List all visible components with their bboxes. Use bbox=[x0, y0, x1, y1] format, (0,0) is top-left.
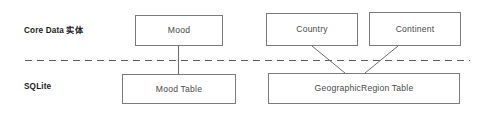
entity-box-country-label: Country bbox=[296, 25, 328, 34]
layer-label-sqlite: SQLite bbox=[24, 83, 51, 91]
table-box-georegion-table-label: GeographicRegion Table bbox=[315, 84, 414, 93]
connector-continent-to-georegion-table bbox=[365, 46, 398, 73]
table-box-mood-table[interactable]: Mood Table bbox=[122, 74, 236, 104]
table-box-georegion-table[interactable]: GeographicRegion Table bbox=[268, 73, 460, 104]
entity-box-mood-label: Mood bbox=[168, 26, 190, 35]
diagram-canvas: Core Data 实体 SQLite Mood Country Contine… bbox=[0, 0, 483, 116]
entity-box-mood[interactable]: Mood bbox=[135, 15, 223, 46]
table-box-mood-table-label: Mood Table bbox=[156, 85, 202, 94]
entity-box-continent-label: Continent bbox=[396, 25, 435, 34]
entity-box-country[interactable]: Country bbox=[266, 13, 358, 46]
entity-box-continent[interactable]: Continent bbox=[369, 12, 461, 46]
connector-country-to-georegion-table bbox=[312, 46, 345, 73]
layer-label-core-data: Core Data 实体 bbox=[24, 27, 83, 35]
